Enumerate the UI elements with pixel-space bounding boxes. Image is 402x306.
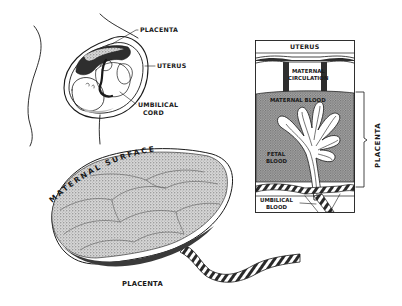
label-placenta-caption: PLACENTA [122,280,163,288]
placenta-bracket [356,92,367,187]
label-umbilical-blood-2: BLOOD [266,204,288,210]
placenta-cross-section: UTERUS MATERNAL CIRCULATION MATERNAL BLO… [256,41,383,213]
maternal-surface [52,152,228,258]
fetus-body [72,78,104,112]
label-uterus-cross: UTERUS [290,43,320,50]
fetus-in-womb-illustration: PLACENTA UTERUS UMBILICAL CORD [28,14,187,146]
placenta-diagram: PLACENTA UTERUS UMBILICAL CORD UTERUS [0,0,402,306]
label-maternal-blood: MATERNAL BLOOD [270,97,326,103]
umbilical-cord [180,246,300,282]
label-uterus: UTERUS [157,62,187,69]
label-fetal-blood-1: FETAL [267,151,286,157]
body-outline-back [28,26,41,146]
label-placenta-bracket: PLACENTA [374,123,382,168]
label-umbilical-cord-1: UMBILICAL [138,101,178,108]
body-outline-belly [100,14,138,38]
label-maternal-circulation-1: MATERNAL [292,68,325,74]
label-placenta: PLACENTA [140,26,178,33]
body-outline-front [99,115,100,144]
label-fetal-blood-2: BLOOD [266,158,288,164]
label-umbilical-blood-1: UMBILICAL [260,197,293,203]
label-umbilical-cord-2: CORD [143,109,164,116]
label-maternal-circulation-2: CIRCULATION [288,75,329,81]
